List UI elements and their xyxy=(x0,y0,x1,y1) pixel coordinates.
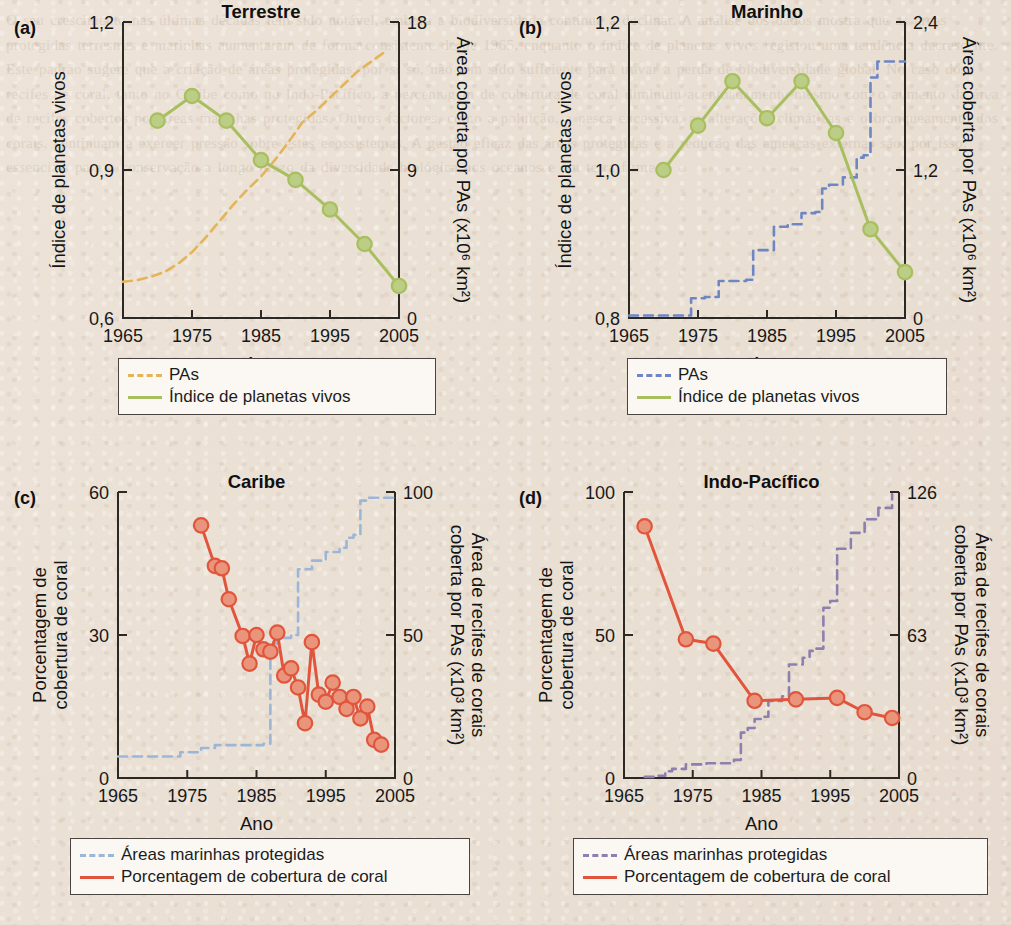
panel-title: Terrestre xyxy=(222,1,301,22)
y-axis-label-left: Índice de planetas vivos xyxy=(554,71,575,268)
svg-text:1,0: 1,0 xyxy=(595,161,620,181)
svg-text:100: 100 xyxy=(585,483,615,503)
legend-label: Porcentagem de cobertura de coral xyxy=(121,867,388,887)
legend-swatch-dashed-icon xyxy=(637,374,671,377)
svg-text:Área de recifes de corais: Área de recifes de corais xyxy=(972,533,993,738)
x-axis-label: Ano xyxy=(745,813,778,834)
legend-label: Índice de planetas vivos xyxy=(678,387,859,407)
y-axis-label-left: Porcentagem decobertura de coral xyxy=(535,560,577,709)
svg-text:63: 63 xyxy=(907,626,927,646)
svg-text:1,2: 1,2 xyxy=(595,13,620,33)
y-axis-right-ticks: 01,22,4 xyxy=(896,13,938,329)
svg-text:60: 60 xyxy=(89,483,109,503)
legend-label: Índice de planetas vivos xyxy=(169,387,350,407)
svg-text:0,9: 0,9 xyxy=(89,161,114,181)
legend-item: Áreas marinhas protegidas xyxy=(80,844,459,866)
legend: PAsÍndice de planetas vivos xyxy=(118,358,436,415)
y-axis-label-right: Área de recifes de coraiscoberta por PAs… xyxy=(951,525,993,746)
legend-swatch-dashed-icon xyxy=(80,854,114,857)
y-axis-label-right: Área de recifes de coraiscoberta por PAs… xyxy=(447,525,489,746)
svg-text:0: 0 xyxy=(913,309,923,329)
svg-text:1975: 1975 xyxy=(167,786,207,806)
svg-text:1975: 1975 xyxy=(673,786,713,806)
svg-text:1985: 1985 xyxy=(741,786,781,806)
legend-item: PAs xyxy=(637,364,936,386)
panel-a: 196519751985199520050,60,91,20918Terrest… xyxy=(0,0,505,455)
svg-text:Porcentagem de: Porcentagem de xyxy=(29,567,50,703)
svg-text:Área coberta por PAs (x10⁶ km: Área coberta por PAs (x10⁶ km²) xyxy=(453,37,474,303)
axis-frame xyxy=(624,492,899,778)
panel-letter: (a) xyxy=(14,18,36,38)
svg-text:1,2: 1,2 xyxy=(913,161,938,181)
series-line-2 xyxy=(664,81,906,272)
series-line-1 xyxy=(629,61,905,315)
svg-text:1995: 1995 xyxy=(306,786,346,806)
x-axis-ticks: 19651975198519952005 xyxy=(604,770,919,806)
legend-item: PAs xyxy=(128,364,425,386)
svg-text:9: 9 xyxy=(407,161,417,181)
legend: PAsÍndice de planetas vivos xyxy=(627,358,947,415)
svg-text:30: 30 xyxy=(89,626,109,646)
y-axis-label-left: Porcentagem decobertura de coral xyxy=(29,560,71,709)
svg-text:coberta por PAs (x10³ km²): coberta por PAs (x10³ km²) xyxy=(447,525,468,746)
legend-item: Índice de planetas vivos xyxy=(637,386,936,408)
legend-swatch-solid-icon xyxy=(128,396,162,399)
series-line-2 xyxy=(645,526,893,718)
legend: Áreas marinhas protegidasPorcentagem de … xyxy=(70,838,470,895)
x-axis-ticks: 19651975198519952005 xyxy=(98,770,415,806)
svg-text:Área coberta por PAs (x10⁶ km: Área coberta por PAs (x10⁶ km²) xyxy=(959,37,980,303)
y-axis-label-right: Área coberta por PAs (x10⁶ km²) xyxy=(453,37,474,303)
legend-item: Áreas marinhas protegidas xyxy=(583,844,977,866)
svg-text:Índice de planetas vivos: Índice de planetas vivos xyxy=(554,71,575,268)
legend-item: Porcentagem de cobertura de coral xyxy=(583,866,977,888)
svg-text:18: 18 xyxy=(407,13,427,33)
x-axis-label: Ano xyxy=(240,813,273,834)
panel-c: 1965197519851995200503060050100Caribe(c)… xyxy=(0,455,505,925)
legend-item: Porcentagem de cobertura de coral xyxy=(80,866,459,888)
svg-text:Índice de planetas vivos: Índice de planetas vivos xyxy=(48,71,69,268)
svg-text:2005: 2005 xyxy=(879,786,919,806)
svg-text:50: 50 xyxy=(595,626,615,646)
svg-text:1985: 1985 xyxy=(747,326,787,346)
svg-text:0: 0 xyxy=(907,769,917,789)
svg-text:cobertura de coral: cobertura de coral xyxy=(50,560,71,709)
svg-text:1965: 1965 xyxy=(98,786,138,806)
svg-text:0,6: 0,6 xyxy=(89,309,114,329)
y-axis-left-ticks: 050100 xyxy=(585,483,633,789)
y-axis-left-ticks: 03060 xyxy=(89,483,127,789)
svg-text:2005: 2005 xyxy=(885,326,925,346)
svg-text:1965: 1965 xyxy=(609,326,649,346)
svg-text:Porcentagem de: Porcentagem de xyxy=(535,567,556,703)
legend-swatch-solid-icon xyxy=(637,396,671,399)
svg-text:2005: 2005 xyxy=(379,326,419,346)
legend-swatch-dashed-icon xyxy=(128,374,162,377)
legend-label: PAs xyxy=(169,365,199,385)
y-axis-right-ticks: 050100 xyxy=(386,483,433,789)
legend-label: PAs xyxy=(678,365,708,385)
svg-text:cobertura de coral: cobertura de coral xyxy=(556,560,577,709)
svg-text:coberta por PAs (x10³ km²): coberta por PAs (x10³ km²) xyxy=(951,525,972,746)
svg-text:1965: 1965 xyxy=(604,786,644,806)
legend-swatch-solid-icon xyxy=(583,876,617,879)
svg-text:0: 0 xyxy=(407,309,417,329)
panel-letter: (d) xyxy=(519,488,542,508)
legend-swatch-solid-icon xyxy=(80,876,114,879)
svg-text:1975: 1975 xyxy=(678,326,718,346)
svg-text:Área de recifes de corais: Área de recifes de corais xyxy=(468,533,489,738)
panel-letter: (b) xyxy=(519,18,542,38)
svg-text:1965: 1965 xyxy=(103,326,143,346)
svg-text:0: 0 xyxy=(99,769,109,789)
svg-text:0,8: 0,8 xyxy=(595,309,620,329)
svg-text:0: 0 xyxy=(403,769,413,789)
svg-text:1975: 1975 xyxy=(172,326,212,346)
svg-text:2,4: 2,4 xyxy=(913,13,938,33)
series-markers-2 xyxy=(150,89,406,293)
legend-label: Porcentagem de cobertura de coral xyxy=(624,867,891,887)
panel-title: Caribe xyxy=(228,471,286,492)
y-axis-label-left: Índice de planetas vivos xyxy=(48,71,69,268)
legend-swatch-dashed-icon xyxy=(583,854,617,857)
x-axis-ticks: 19651975198519952005 xyxy=(609,310,925,346)
svg-text:1985: 1985 xyxy=(241,326,281,346)
series-line-2 xyxy=(158,96,400,286)
legend-label: Áreas marinhas protegidas xyxy=(121,845,324,865)
